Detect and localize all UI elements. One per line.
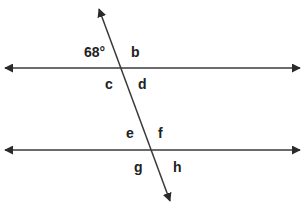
diagram-canvas: [0, 0, 305, 204]
angle-b-label: b: [131, 45, 140, 59]
angle-h-label: h: [173, 160, 182, 174]
parallel-lines-diagram: 68° b c d e f g h: [0, 0, 305, 204]
angle-g-label: g: [134, 160, 143, 174]
angle-c-label: c: [105, 77, 113, 91]
angle-f-label: f: [158, 126, 163, 140]
angle-d-label: d: [138, 77, 147, 91]
angle-e-label: e: [126, 126, 134, 140]
angle-68-label: 68°: [84, 45, 105, 59]
